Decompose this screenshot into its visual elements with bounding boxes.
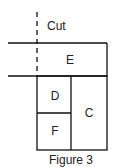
cut-diagram: Cut E D C F Figure 3 (0, 0, 121, 167)
region-c-label: C (85, 106, 94, 120)
figure-caption: Figure 3 (49, 153, 93, 167)
region-e-label: E (66, 53, 74, 67)
region-f-label: F (51, 124, 58, 138)
region-d-label: D (51, 89, 60, 103)
region-e (8, 43, 107, 76)
cut-label: Cut (47, 19, 66, 33)
